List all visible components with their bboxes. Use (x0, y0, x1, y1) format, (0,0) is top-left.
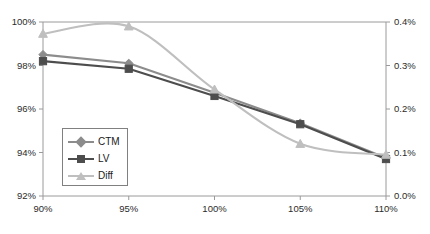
chart-figure: 92%94%96%98%100% 0.0%0.1%0.2%0.3%0.4% 90… (0, 0, 430, 234)
square-marker-icon (77, 155, 85, 163)
legend-swatch-diff (68, 170, 94, 182)
y-axis-left-tick-label: 94% (0, 147, 36, 158)
legend-item-ctm[interactable]: CTM (68, 134, 120, 150)
y-axis-left-tick-label: 100% (0, 16, 36, 27)
x-axis-tick-label: 105% (270, 203, 330, 214)
legend-item-diff[interactable]: Diff (68, 168, 113, 184)
y-axis-left-tick-label: 98% (0, 60, 36, 71)
x-axis-tick-label: 110% (356, 203, 416, 214)
y-axis-left-tick-label: 92% (0, 190, 36, 201)
legend-swatch-ctm (68, 136, 94, 148)
y-axis-left-tick-label: 96% (0, 103, 36, 114)
x-axis-tick-label: 100% (185, 203, 245, 214)
figure-caption (8, 222, 428, 234)
x-axis-tick-label: 95% (99, 203, 159, 214)
chart-plot-area (0, 0, 430, 234)
legend-label: LV (98, 153, 110, 165)
triangle-marker-icon (76, 172, 86, 180)
legend-label: CTM (98, 136, 120, 148)
y-axis-right-tick-label: 0.0% (394, 190, 416, 201)
y-axis-right-tick-label: 0.4% (394, 16, 416, 27)
diamond-marker-icon (75, 136, 86, 147)
legend-label: Diff (98, 170, 113, 182)
legend-swatch-lv (68, 153, 94, 165)
x-axis-tick-label: 90% (13, 203, 73, 214)
legend-item-lv[interactable]: LV (68, 151, 110, 167)
y-axis-right-tick-label: 0.3% (394, 60, 416, 71)
y-axis-right-tick-label: 0.2% (394, 103, 416, 114)
y-axis-right-tick-label: 0.1% (394, 147, 416, 158)
